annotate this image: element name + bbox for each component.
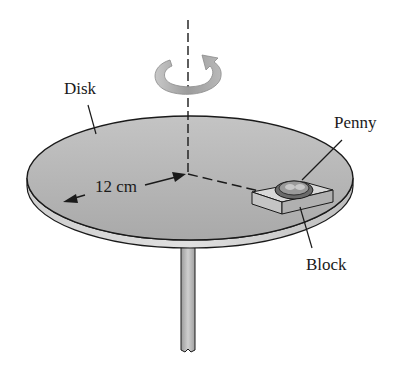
penny-label: Penny [334, 113, 377, 133]
rotating-disk-diagram: Disk Penny Block 12 cm [0, 0, 413, 376]
diagram-canvas [0, 0, 413, 376]
penny [275, 181, 313, 199]
disk-label: Disk [64, 79, 96, 99]
radius-label: 12 cm [95, 177, 137, 197]
block-label: Block [306, 255, 347, 275]
